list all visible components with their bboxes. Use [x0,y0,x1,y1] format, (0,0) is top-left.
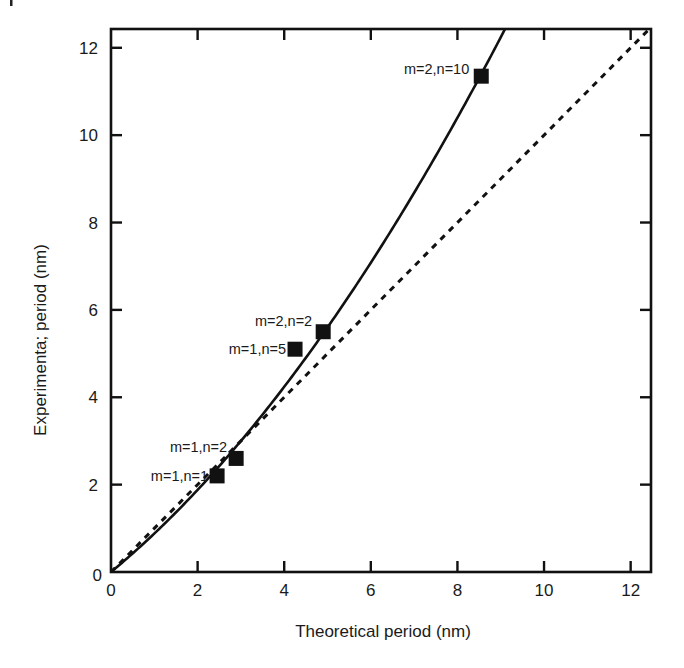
y-tick-label: 12 [79,39,98,58]
identity-dashed-line [111,27,651,572]
x-tick-label: 6 [366,581,375,600]
x-axis-title: Theoretical period (nm) [295,622,471,641]
x-tick-labels: 024681012 [106,581,640,600]
data-point-label: m=1,n=2 [170,439,227,455]
y-tick-label: 2 [89,476,98,495]
data-point-label: m=1,n=1 [151,468,208,484]
y-axis-title: Experimenta; period (nm) [31,244,50,436]
data-point-marker [316,324,331,339]
data-point-marker [288,342,303,357]
x-tick-label: 12 [621,581,640,600]
data-markers [210,69,489,484]
data-point-marker [210,468,225,483]
x-tick-label: 10 [535,581,554,600]
y-tick-label: 8 [89,214,98,233]
y-tick-labels: 024681012 [79,39,102,585]
y-tick-label: 6 [89,301,98,320]
x-tick-label: 4 [279,581,288,600]
y-tick-label: 4 [89,388,98,407]
x-tick-label: 8 [453,581,462,600]
x-tick-label: 2 [193,581,202,600]
data-point-label: m=1,n=5 [229,341,286,357]
data-point-label: m=2,n=10 [404,61,469,77]
x-tick-label: 0 [106,581,115,600]
y-tick-label: 10 [79,126,98,145]
data-point-marker [474,69,489,84]
chart: m=1,n=1m=1,n=2m=1,n=5m=2,n=2m=2,n=10 024… [0,0,684,668]
plot-area: m=1,n=1m=1,n=2m=1,n=5m=2,n=2m=2,n=10 [111,0,651,572]
data-point-marker [229,451,244,466]
fit-curve [111,0,651,572]
crop-mark [10,0,13,6]
identity-line [111,27,651,572]
y-tick-label: 0 [93,566,102,585]
data-point-label: m=2,n=2 [255,313,312,329]
point-labels: m=1,n=1m=1,n=2m=1,n=5m=2,n=2m=2,n=10 [151,61,469,484]
